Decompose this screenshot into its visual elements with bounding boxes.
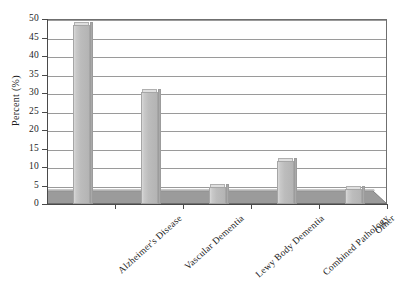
y-axis-tick (42, 38, 47, 39)
gridline (48, 94, 386, 95)
x-axis-tick (387, 204, 388, 209)
bar-front-face (141, 92, 158, 204)
gridline (48, 20, 386, 21)
y-axis-tick (42, 75, 47, 76)
bar-front-face (345, 189, 362, 204)
y-axis-tick (42, 93, 47, 94)
bar (345, 189, 362, 204)
bar (141, 92, 158, 204)
bar-side-face (362, 186, 365, 204)
bar (209, 187, 226, 204)
plot-area (47, 19, 387, 204)
x-axis-line (47, 204, 388, 205)
gridline (48, 150, 386, 151)
y-axis-tick-label: 0 (0, 199, 39, 209)
y-axis-tick (42, 19, 47, 20)
y-axis-tick-label: 10 (0, 162, 39, 172)
y-axis-tick-label: 20 (0, 125, 39, 135)
bar-top-face (142, 89, 157, 92)
bar-side-face (226, 184, 229, 204)
gridline (48, 131, 386, 132)
bar-side-face (294, 158, 297, 204)
y-axis-tick (42, 149, 47, 150)
gridline (48, 168, 386, 169)
x-axis-tick (251, 204, 252, 209)
bar-top-face (210, 184, 225, 187)
y-axis-tick-label: 35 (0, 70, 39, 80)
y-axis-tick-label: 40 (0, 51, 39, 61)
gridline (48, 76, 386, 77)
y-axis-line (47, 19, 48, 205)
y-axis-tick-label: 5 (0, 181, 39, 191)
x-axis-category-label: Other (373, 213, 397, 236)
y-axis-tick-label: 15 (0, 144, 39, 154)
bar-front-face (73, 25, 90, 204)
x-axis-category-label: Lewy Body Dementia (254, 213, 327, 280)
x-axis-tick (183, 204, 184, 209)
bar-top-face (74, 22, 89, 25)
bar-top-face (346, 186, 361, 189)
y-axis-tick-label: 45 (0, 33, 39, 43)
x-axis-tick (115, 204, 116, 209)
bar (277, 161, 294, 204)
gridline (48, 57, 386, 58)
y-axis-tick (42, 130, 47, 131)
bar-front-face (277, 161, 294, 204)
bar (73, 25, 90, 204)
y-axis-tick-label: 50 (0, 14, 39, 24)
x-axis-tick (319, 204, 320, 209)
gridline (48, 113, 386, 114)
y-axis-tick (42, 56, 47, 57)
bar-front-face (209, 187, 226, 204)
y-axis-tick (42, 186, 47, 187)
y-axis-tick (42, 112, 47, 113)
y-axis-tick-label: 25 (0, 107, 39, 117)
x-axis-category-label: Alzheimer's Disease (116, 213, 184, 276)
y-axis-tick-label: 30 (0, 88, 39, 98)
x-axis-category-label: Vascular Dementia (183, 213, 247, 272)
bar-side-face (90, 22, 93, 204)
y-axis-tick (42, 167, 47, 168)
bar-side-face (158, 89, 161, 204)
gridline (48, 39, 386, 40)
bar-chart: Percent (%) 05101520253035404550 Alzheim… (0, 0, 400, 303)
bar-top-face (278, 158, 293, 161)
